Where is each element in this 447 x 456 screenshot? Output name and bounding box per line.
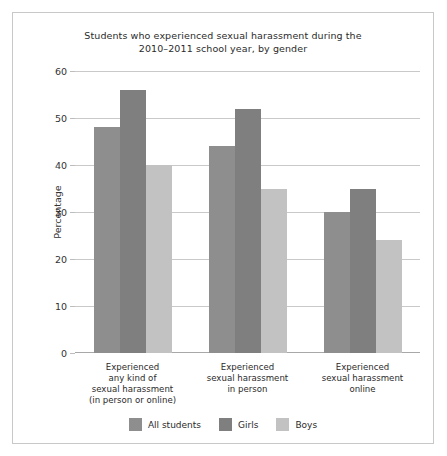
- bar: [324, 212, 350, 353]
- y-axis-tick-label: 0: [61, 348, 67, 359]
- y-axis-tick-mark: [70, 118, 75, 119]
- gridline: [75, 353, 420, 354]
- y-axis-tick-mark: [70, 306, 75, 307]
- chart-title-line-2: 2010–2011 school year, by gender: [13, 42, 433, 55]
- legend-label: All students: [148, 420, 201, 430]
- bar: [350, 189, 376, 354]
- legend-item[interactable]: Girls: [219, 418, 258, 431]
- bar: [261, 189, 287, 354]
- legend-item[interactable]: Boys: [276, 418, 317, 431]
- y-axis-tick-label: 50: [55, 113, 67, 124]
- bar: [94, 127, 120, 353]
- gridline: [75, 71, 420, 72]
- y-axis-tick-mark: [70, 165, 75, 166]
- chart-title-line-1: Students who experienced sexual harassme…: [13, 29, 433, 42]
- legend-label: Boys: [295, 420, 317, 430]
- y-axis-tick-mark: [70, 71, 75, 72]
- bar: [235, 109, 261, 353]
- legend-label: Girls: [238, 420, 258, 430]
- y-axis-tick-label: 20: [55, 254, 67, 265]
- x-axis-category-label: Experienced sexual harassment in person: [182, 362, 313, 395]
- chart-legend: All studentsGirlsBoys: [13, 418, 433, 431]
- legend-item[interactable]: All students: [129, 418, 201, 431]
- y-axis-tick-mark: [70, 353, 75, 354]
- y-axis-tick-mark: [70, 212, 75, 213]
- chart-title: Students who experienced sexual harassme…: [13, 29, 433, 55]
- x-axis-category-label: Experienced sexual harassment online: [297, 362, 428, 395]
- y-axis-tick-mark: [70, 259, 75, 260]
- legend-swatch-icon: [129, 418, 142, 431]
- legend-swatch-icon: [276, 418, 289, 431]
- y-axis-tick-label: 30: [55, 207, 67, 218]
- legend-swatch-icon: [219, 418, 232, 431]
- y-axis-tick-label: 10: [55, 301, 67, 312]
- y-axis-tick-label: 40: [55, 160, 67, 171]
- bar: [146, 165, 172, 353]
- y-axis-tick-label: 60: [55, 66, 67, 77]
- chart-figure: Students who experienced sexual harassme…: [12, 12, 434, 444]
- bar: [376, 240, 402, 353]
- x-axis-category-label: Experienced any kind of sexual harassmen…: [67, 362, 198, 406]
- bar: [209, 146, 235, 353]
- bar: [120, 90, 146, 353]
- plot-area: Percentage 0102030405060 Experienced any…: [75, 71, 420, 353]
